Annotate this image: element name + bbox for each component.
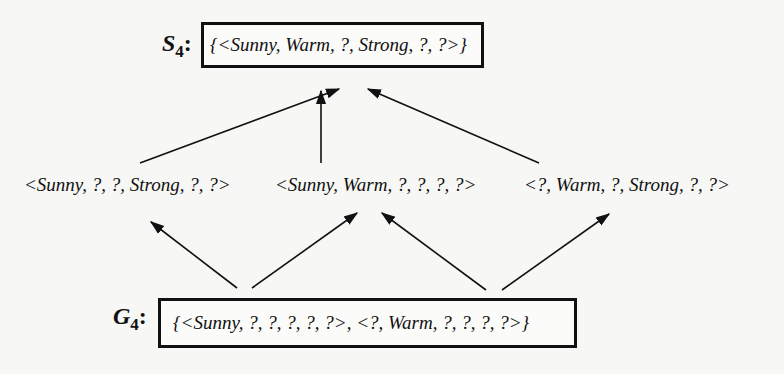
hypothesis-1: <Sunny, ?, ?, Strong, ?, ?> xyxy=(24,174,231,196)
edge-g1-to-mid1 xyxy=(382,213,486,290)
g4-label: G4: xyxy=(113,303,147,335)
s4-set-text: {<Sunny, Warm, ?, Strong, ?, ?>} xyxy=(210,34,467,56)
edge-mid2-to-s4 xyxy=(368,89,539,163)
s4-label: S4: xyxy=(162,30,192,62)
g4-boundary-box: {<Sunny, ?, ?, ?, ?, ?>, <?, Warm, ?, ?,… xyxy=(158,298,577,348)
hypothesis-3: <?, Warm, ?, Strong, ?, ?> xyxy=(524,174,730,196)
edge-g0-to-mid1 xyxy=(252,213,357,288)
g4-set-text: {<Sunny, ?, ?, ?, ?, ?>, <?, Warm, ?, ?,… xyxy=(173,312,529,334)
hypothesis-2: <Sunny, Warm, ?, ?, ?, ?> xyxy=(275,174,476,196)
s4-boundary-box: {<Sunny, Warm, ?, Strong, ?, ?>} xyxy=(201,22,484,68)
edge-g1-to-mid2 xyxy=(502,214,609,290)
edge-g0-to-mid0 xyxy=(151,222,237,288)
edge-mid0-to-s4 xyxy=(140,89,339,163)
